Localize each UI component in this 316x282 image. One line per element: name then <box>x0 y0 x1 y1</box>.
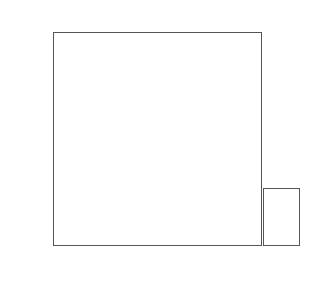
legend-item-girls <box>269 226 282 235</box>
legend-swatch-boys <box>269 210 277 218</box>
legend-swatch-girls <box>269 227 277 235</box>
plot-area <box>53 32 262 246</box>
legend-item-boys <box>269 209 282 218</box>
legend <box>263 188 300 246</box>
